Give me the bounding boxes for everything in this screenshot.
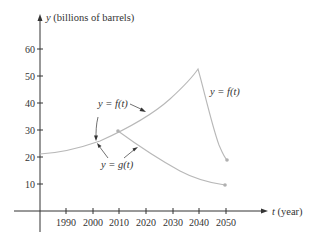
y-tick-label: 40 xyxy=(25,98,35,109)
x-tick-label: 1990 xyxy=(56,217,76,228)
x-tick-label: 2000 xyxy=(83,217,103,228)
x-tick-label: 2020 xyxy=(136,217,156,228)
y-tick-label: 30 xyxy=(25,125,35,136)
f-leader-line-2 xyxy=(96,117,98,138)
g-leader-line-2 xyxy=(124,149,135,158)
arrowhead-icon xyxy=(140,108,147,113)
f-curve xyxy=(40,69,227,160)
y-tick-label: 60 xyxy=(25,44,35,55)
f-annotation-left: y = f(t) xyxy=(97,98,128,110)
f-endpoint xyxy=(225,158,229,162)
g-leader-line xyxy=(99,146,108,158)
g-start-point xyxy=(116,129,120,133)
f-annotation-right: y = f(t) xyxy=(209,86,240,98)
arrowhead-icon xyxy=(97,143,102,148)
g-curve xyxy=(118,131,225,185)
x-tick-label: 2030 xyxy=(163,217,183,228)
x-tick-labels: 1990 2000 2010 2020 2030 2040 2050 xyxy=(56,217,236,228)
y-tick-label: 20 xyxy=(25,152,35,163)
y-tick-label: 10 xyxy=(25,179,35,190)
chart: 10 20 30 40 50 60 1990 2000 2010 2020 20… xyxy=(0,0,309,237)
g-annotation: y = g(t) xyxy=(100,159,134,171)
x-tick-label: 2010 xyxy=(109,217,129,228)
y-axis-label: y (billions of barrels) xyxy=(45,12,135,24)
g-endpoint xyxy=(223,183,227,187)
x-tick-label: 2040 xyxy=(189,217,209,228)
arrowhead-icon xyxy=(94,136,98,142)
y-tick-labels: 10 20 30 40 50 60 xyxy=(25,44,35,190)
x-axis-arrow-icon xyxy=(261,209,268,214)
x-axis-label: t (year) xyxy=(272,206,303,218)
y-axis-arrow-icon xyxy=(38,14,43,21)
arrowhead-icon xyxy=(133,147,139,152)
y-tick-label: 50 xyxy=(25,71,35,82)
x-tick-label: 2050 xyxy=(216,217,236,228)
